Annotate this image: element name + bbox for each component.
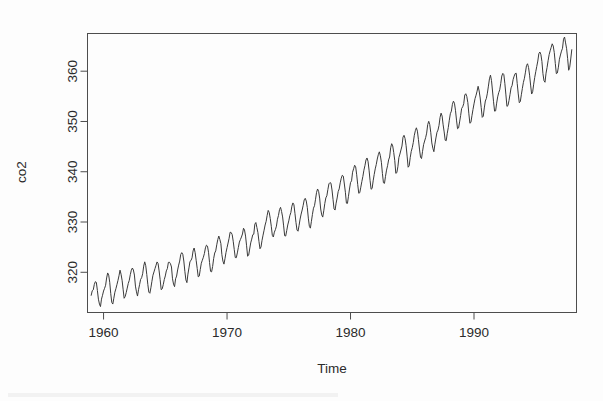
x-tick-label: 1980 (335, 325, 365, 340)
x-axis-title: Time (317, 361, 347, 376)
y-tick-label: 330 (65, 211, 80, 234)
x-axis-tick-labels: 1960197019801990 (89, 325, 490, 340)
figure-container: 1960197019801990 320330340350360 Time co… (0, 0, 603, 401)
co2-series-line (91, 37, 572, 307)
y-axis-title: co2 (14, 161, 29, 183)
scan-artifact-smudge (8, 393, 338, 397)
co2-line-chart: 1960197019801990 320330340350360 Time co… (0, 0, 603, 401)
y-tick-label: 340 (65, 160, 80, 183)
y-tick-label: 320 (65, 261, 80, 284)
y-tick-label: 360 (65, 60, 80, 83)
x-axis-ticks (104, 313, 474, 320)
x-tick-label: 1970 (212, 325, 242, 340)
x-tick-label: 1960 (89, 325, 119, 340)
x-tick-label: 1990 (459, 325, 489, 340)
y-axis-tick-labels: 320330340350360 (65, 60, 80, 284)
y-tick-label: 350 (65, 110, 80, 133)
plot-box-border (88, 34, 577, 313)
y-axis-ticks (81, 71, 88, 272)
